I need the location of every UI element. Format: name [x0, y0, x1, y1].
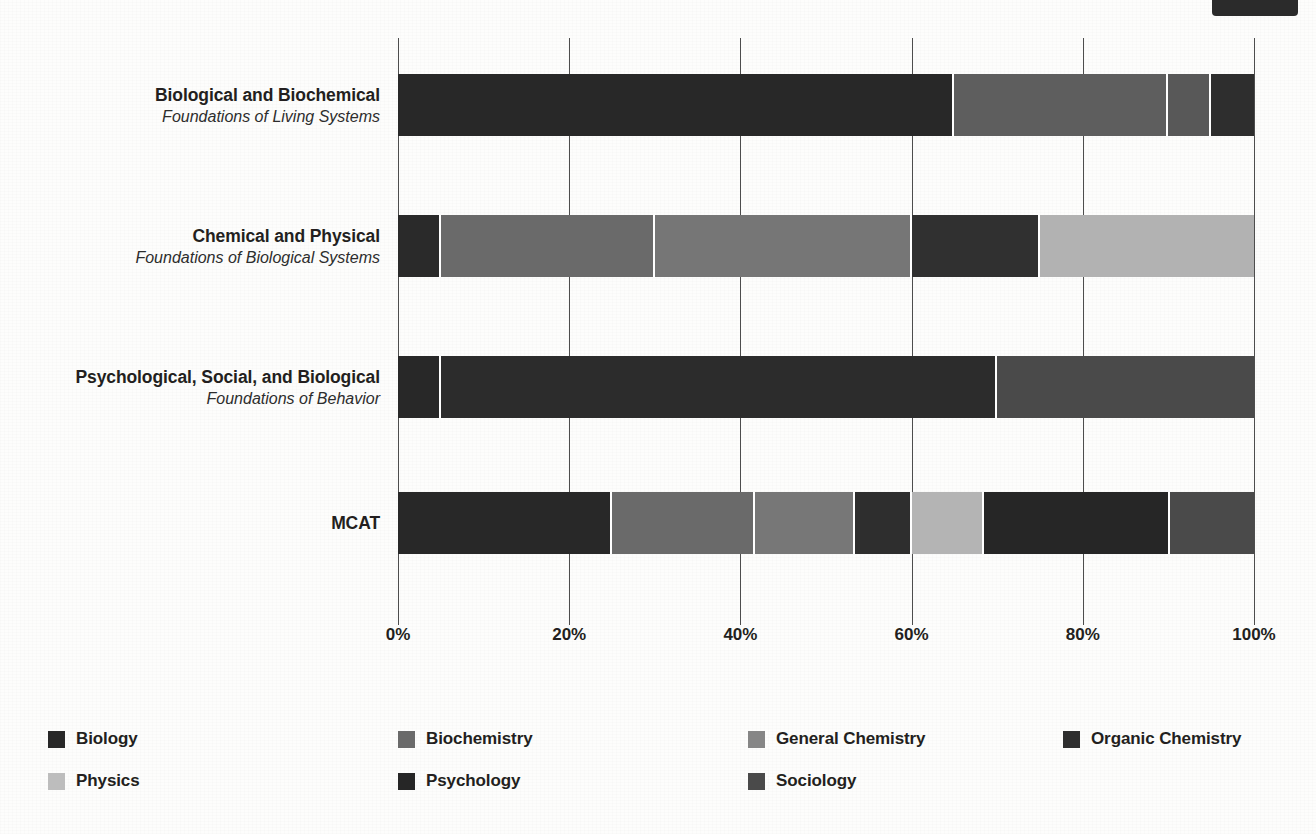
legend-row: PhysicsPsychologySociology [48, 760, 1268, 802]
bar-segment[interactable] [1040, 215, 1254, 277]
category-label-sub: Foundations of Biological Systems [18, 247, 380, 268]
x-axis-tick-label: 60% [895, 625, 929, 645]
legend-item-label: Psychology [426, 771, 520, 791]
x-axis-tick-label: 80% [1066, 625, 1100, 645]
category-label: MCAT [18, 512, 380, 534]
legend-item-label: Biochemistry [426, 729, 533, 749]
bar-segment[interactable] [398, 74, 954, 136]
bar-row [398, 215, 1254, 277]
bar-segment[interactable] [855, 492, 911, 554]
gridline-100 [1254, 38, 1255, 616]
legend-item[interactable]: General Chemistry [748, 729, 925, 749]
category-label-main: Psychological, Social, and Biological [18, 366, 380, 388]
legend-row: BiologyBiochemistryGeneral ChemistryOrga… [48, 718, 1268, 760]
x-axis-tick-label: 20% [552, 625, 586, 645]
legend-swatch-icon [398, 773, 415, 790]
x-axis-tick-label: 0% [386, 625, 411, 645]
legend-swatch-icon [48, 731, 65, 748]
category-label-main: MCAT [18, 512, 380, 534]
legend-item-label: Physics [76, 771, 140, 791]
bar-segment[interactable] [997, 356, 1254, 418]
legend-item[interactable]: Biochemistry [398, 729, 533, 749]
bar-row [398, 492, 1254, 554]
category-label: Chemical and PhysicalFoundations of Biol… [18, 225, 380, 268]
bar-segment[interactable] [984, 492, 1170, 554]
bar-segment[interactable] [1168, 74, 1211, 136]
bar-segment[interactable] [441, 356, 997, 418]
legend-item[interactable]: Biology [48, 729, 138, 749]
bar-segment[interactable] [441, 215, 655, 277]
bar-row [398, 74, 1254, 136]
legend-swatch-icon [748, 773, 765, 790]
legend-item-label: Biology [76, 729, 138, 749]
bar-segment[interactable] [612, 492, 755, 554]
bar-segment[interactable] [912, 492, 985, 554]
legend-item-label: General Chemistry [776, 729, 925, 749]
legend-item-label: Sociology [776, 771, 856, 791]
x-axis-tick [398, 616, 399, 625]
category-label: Biological and BiochemicalFoundations of… [18, 84, 380, 127]
category-label-sub: Foundations of Living Systems [18, 106, 380, 127]
category-label-sub: Foundations of Behavior [18, 388, 380, 409]
bar-segment[interactable] [755, 492, 855, 554]
legend-item[interactable]: Organic Chemistry [1063, 729, 1241, 749]
legend-item[interactable]: Physics [48, 771, 140, 791]
x-axis-tick [1083, 616, 1084, 625]
category-label-main: Chemical and Physical [18, 225, 380, 247]
x-axis-tick-label: 40% [723, 625, 757, 645]
x-axis-tick [569, 616, 570, 625]
x-axis-tick [740, 616, 741, 625]
stacked-bar-chart: Biological and BiochemicalFoundations of… [0, 0, 1316, 834]
bar-segment[interactable] [1211, 74, 1254, 136]
x-axis-tick-label: 100% [1232, 625, 1275, 645]
legend-item-label: Organic Chemistry [1091, 729, 1241, 749]
bar-segment[interactable] [655, 215, 912, 277]
bar-segment[interactable] [398, 356, 441, 418]
bar-segment[interactable] [954, 74, 1168, 136]
x-axis-tick [912, 616, 913, 625]
x-axis-tick [1254, 616, 1255, 625]
category-label-main: Biological and Biochemical [18, 84, 380, 106]
chart-legend: BiologyBiochemistryGeneral ChemistryOrga… [48, 718, 1268, 802]
legend-swatch-icon [1063, 731, 1080, 748]
bar-segment[interactable] [398, 215, 441, 277]
legend-swatch-icon [48, 773, 65, 790]
category-label: Psychological, Social, and BiologicalFou… [18, 366, 380, 409]
bar-segment[interactable] [398, 492, 612, 554]
bar-segment[interactable] [912, 215, 1040, 277]
legend-item[interactable]: Sociology [748, 771, 856, 791]
legend-item[interactable]: Psychology [398, 771, 520, 791]
legend-swatch-icon [398, 731, 415, 748]
bar-row [398, 356, 1254, 418]
bar-segment[interactable] [1170, 492, 1254, 554]
legend-swatch-icon [748, 731, 765, 748]
